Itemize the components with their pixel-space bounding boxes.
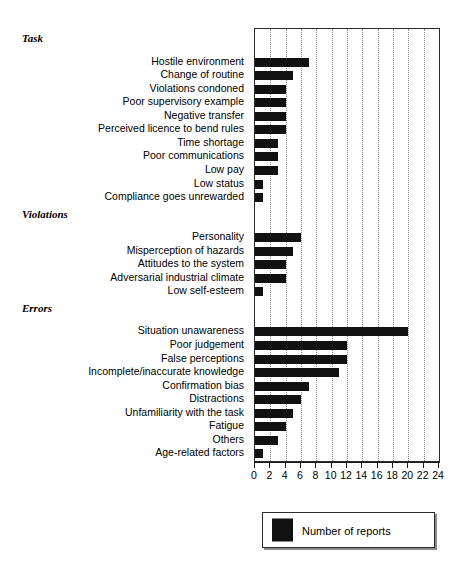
bar (255, 422, 286, 431)
bar (255, 98, 286, 107)
chart-figure: TaskHostile environmentChange of routine… (0, 0, 464, 581)
bar (255, 139, 278, 148)
bar (255, 327, 408, 336)
category-label: Age-related factors (155, 447, 244, 458)
category-label: Attitudes to the system (138, 258, 244, 269)
category-label: Low self-esteem (168, 285, 244, 296)
category-label: Misperception of hazards (127, 245, 244, 256)
bar (255, 274, 286, 283)
group-label-violations: Violations (22, 208, 68, 220)
x-tick-label-10: 10 (325, 469, 337, 481)
bar (255, 355, 347, 364)
plot-area (254, 28, 440, 462)
x-tick-label-0: 0 (251, 469, 257, 481)
category-label: Change of routine (161, 69, 244, 80)
x-tick-20 (407, 462, 408, 468)
bar (255, 287, 263, 296)
category-label: Personality (192, 231, 244, 242)
category-label: Violations condoned (150, 83, 244, 94)
bar (255, 58, 309, 67)
group-label-task: Task (22, 32, 43, 44)
bar (255, 180, 263, 189)
category-label-column: TaskHostile environmentChange of routine… (0, 28, 248, 462)
bar (255, 449, 263, 458)
bar (255, 193, 263, 202)
legend-swatch-number-of-reports (272, 519, 293, 542)
x-tick-14 (361, 462, 362, 468)
x-tick-4 (285, 462, 286, 468)
category-label: Fatigue (209, 420, 244, 431)
x-tick-label-2: 2 (266, 469, 272, 481)
x-tick-0 (254, 462, 255, 468)
x-tick-label-22: 22 (417, 469, 429, 481)
bar (255, 368, 339, 377)
bar (255, 71, 293, 80)
x-tick-label-16: 16 (371, 469, 383, 481)
category-label: Low pay (205, 164, 244, 175)
category-label: Time shortage (177, 137, 244, 148)
bar (255, 112, 286, 121)
bar-rows (255, 29, 439, 461)
category-label: Compliance goes unrewarded (105, 191, 245, 202)
bar (255, 382, 309, 391)
category-label: Poor supervisory example (123, 96, 244, 107)
bar (255, 166, 278, 175)
x-tick-6 (300, 462, 301, 468)
x-tick-18 (392, 462, 393, 468)
group-label-errors: Errors (22, 302, 52, 314)
bar (255, 152, 278, 161)
x-tick-12 (346, 462, 347, 468)
x-tick-16 (377, 462, 378, 468)
gridline-24 (439, 29, 440, 461)
category-label: Confirmation bias (162, 380, 244, 391)
bar (255, 247, 293, 256)
category-label: Incomplete/inaccurate knowledge (88, 366, 244, 377)
x-tick-label-24: 24 (432, 469, 444, 481)
legend-label-number-of-reports: Number of reports (302, 524, 391, 536)
x-axis: 024681012141618202224 (254, 462, 440, 486)
x-tick-24 (438, 462, 439, 468)
bar (255, 341, 347, 350)
category-label: Poor communications (143, 150, 244, 161)
category-label: Poor judgement (170, 339, 244, 350)
chart-legend: Number of reports (262, 512, 435, 548)
x-tick-label-6: 6 (297, 469, 303, 481)
x-tick-10 (331, 462, 332, 468)
x-tick-label-18: 18 (386, 469, 398, 481)
category-label: Low status (194, 178, 244, 189)
category-label: Others (212, 434, 244, 445)
x-tick-22 (423, 462, 424, 468)
category-label: Situation unawareness (138, 325, 244, 336)
bar (255, 85, 286, 94)
category-label: False perceptions (161, 353, 244, 364)
category-label: Distractions (189, 393, 244, 404)
bar (255, 395, 301, 404)
bar (255, 409, 293, 418)
bar (255, 260, 286, 269)
bar (255, 233, 301, 242)
bar (255, 436, 278, 445)
x-tick-label-8: 8 (312, 469, 318, 481)
category-label: Negative transfer (164, 110, 244, 121)
x-axis-line (254, 462, 440, 463)
category-label: Adversarial industrial climate (110, 272, 244, 283)
x-tick-label-4: 4 (282, 469, 288, 481)
x-tick-label-14: 14 (355, 469, 367, 481)
category-label: Hostile environment (151, 56, 244, 67)
bar (255, 125, 286, 134)
category-label: Perceived licence to bend rules (98, 123, 244, 134)
x-tick-label-20: 20 (401, 469, 413, 481)
x-tick-2 (269, 462, 270, 468)
x-tick-label-12: 12 (340, 469, 352, 481)
x-tick-8 (315, 462, 316, 468)
category-label: Unfamiliarity with the task (125, 407, 244, 418)
